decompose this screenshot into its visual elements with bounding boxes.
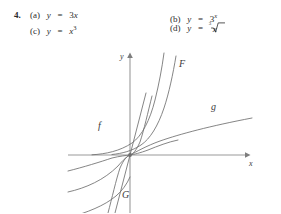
curve-lower-branch <box>68 177 130 213</box>
curve-F-secondary <box>92 53 164 155</box>
option-c-exponent: 3 <box>73 24 76 31</box>
option-b-exponent: x <box>214 12 217 19</box>
option-c-equals: = <box>58 26 63 36</box>
option-a-equals: = <box>58 10 63 20</box>
graph-svg: x y f <box>0 40 281 213</box>
axes-group <box>68 53 251 214</box>
option-d-y: y <box>187 23 191 33</box>
curves-group <box>68 53 252 213</box>
option-d-key: (d) <box>170 23 181 33</box>
curve-label-g: g <box>211 101 216 112</box>
option-a-variable: x <box>74 10 78 20</box>
option-c-key: (c) <box>30 26 40 36</box>
x-axis-label: x <box>248 159 253 168</box>
option-a: (a) y = 3x <box>30 10 78 21</box>
curve-label-F: F <box>178 58 186 69</box>
option-d-radicand: x <box>213 24 217 34</box>
option-a-y: y <box>47 10 51 20</box>
exercise-figure-page: 4. (a) y = 3x (c) y = x3 (b) y <box>0 0 281 213</box>
radical-index: 3 <box>209 18 212 29</box>
problem-number: 4. <box>14 10 21 21</box>
x-axis-arrow-icon <box>245 152 251 158</box>
curve-label-G: G <box>122 189 129 200</box>
option-c-y: y <box>47 26 51 36</box>
option-c: (c) y = x3 <box>30 22 77 37</box>
curve-label-f: f <box>98 120 102 131</box>
curve-F <box>112 56 176 155</box>
y-axis-arrow-icon <box>127 53 133 59</box>
cube-root-icon: 3 x <box>210 22 229 34</box>
graph-figure: x y f <box>0 40 281 213</box>
option-d: (d) y = 3 x <box>170 22 229 34</box>
y-axis-label: y <box>119 52 124 61</box>
origin-marker <box>128 153 132 157</box>
option-a-key: (a) <box>30 10 40 20</box>
option-d-equals: = <box>198 23 203 33</box>
